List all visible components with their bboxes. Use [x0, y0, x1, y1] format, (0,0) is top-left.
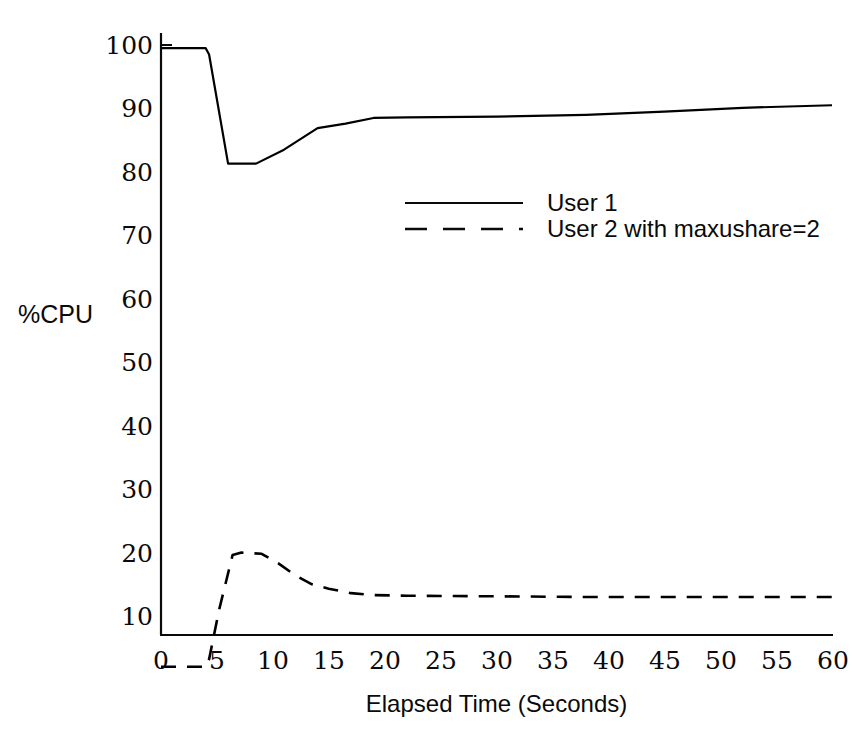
x-tick-label: 40 — [579, 648, 639, 673]
y-tick-label: 100 — [85, 33, 153, 58]
x-axis-title: Elapsed Time (Seconds) — [161, 690, 832, 718]
series-layer — [161, 48, 832, 667]
x-tick-label: 60 — [803, 648, 854, 673]
cpu-utilization-chart: 100 90 80 70 60 50 40 30 20 10 0 5 10 15… — [0, 0, 854, 743]
x-tick-label: 35 — [523, 648, 583, 673]
y-tick-label: 20 — [85, 541, 153, 566]
x-tick-label: 25 — [411, 648, 471, 673]
y-tick-label: 70 — [85, 223, 153, 248]
x-tick-label: 20 — [355, 648, 415, 673]
y-tick-label: 40 — [85, 414, 153, 439]
x-tick-label: 45 — [635, 648, 695, 673]
legend-entry-user-2: User 2 with maxushare=2 — [405, 216, 825, 242]
chart-legend: User 1 User 2 with maxushare=2 — [405, 190, 825, 242]
y-tick-label: 50 — [85, 350, 153, 375]
legend-entry-user-1: User 1 — [405, 190, 825, 216]
x-tick-label: 10 — [243, 648, 303, 673]
x-tick-label: 30 — [467, 648, 527, 673]
y-tick-label: 90 — [85, 96, 153, 121]
y-axis-title: %CPU — [18, 300, 93, 328]
y-tick-label: 10 — [85, 604, 153, 629]
legend-swatch-solid-icon — [405, 193, 523, 213]
legend-label: User 1 — [547, 190, 618, 216]
legend-label: User 2 with maxushare=2 — [547, 216, 820, 242]
x-tick-label: 5 — [187, 648, 247, 673]
series-line-1 — [161, 48, 832, 163]
y-tick-label: 80 — [85, 160, 153, 185]
x-tick-label: 15 — [299, 648, 359, 673]
x-tick-label: 0 — [131, 648, 191, 673]
y-tick-label: 60 — [85, 287, 153, 312]
y-tick-label: 30 — [85, 477, 153, 502]
legend-swatch-dashed-icon — [405, 219, 523, 239]
x-tick-label: 50 — [691, 648, 751, 673]
x-tick-label: 55 — [747, 648, 807, 673]
